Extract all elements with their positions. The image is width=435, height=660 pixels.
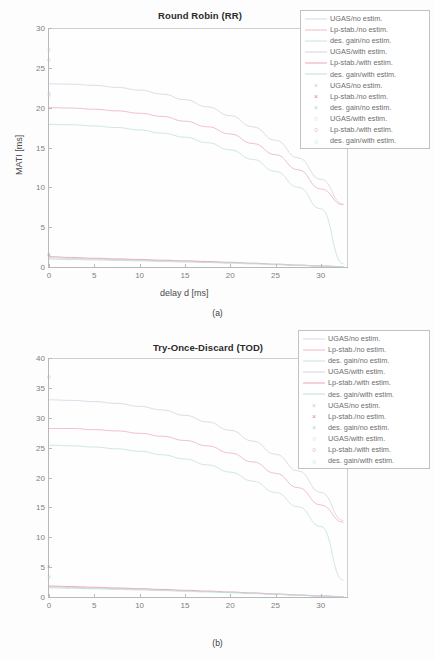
legend-marker-icon: × (314, 104, 318, 111)
y-tick-mark (49, 68, 52, 69)
legend-item: ×Lp-stab./no estim. (303, 91, 426, 102)
legend-a: UGAS/no estim.Lp-stab./no estim.des. gai… (300, 10, 430, 149)
legend-item: ○UGAS/with estim. (301, 433, 426, 444)
legend-line-swatch (303, 69, 329, 80)
legend-marker-icon: ○ (312, 457, 316, 464)
legend-line (305, 40, 327, 41)
x-tick-label: 10 (135, 271, 144, 280)
legend-marker-swatch: × (303, 80, 329, 91)
legend-label: Lp-stab./no estim. (327, 345, 386, 354)
legend-label: des. gain/with estim. (327, 456, 394, 465)
legend-item: des. gain/no estim. (303, 35, 426, 46)
legend-item: ×des. gain/no estim. (303, 102, 426, 113)
y-tick-mark (49, 227, 52, 228)
legend-line-swatch (301, 366, 327, 377)
x-tick-mark (49, 264, 50, 267)
chart-title-a: Round Robin (RR) (120, 10, 280, 21)
legend-line-swatch (303, 35, 329, 46)
y-tick-mark (49, 28, 52, 29)
y-tick-label: 25 (36, 443, 45, 452)
legend-b: UGAS/no estim.Lp-stab./no estim.des. gai… (298, 330, 430, 469)
legend-line (305, 29, 327, 30)
legend-marker-icon: × (314, 82, 318, 89)
legend-line (305, 18, 327, 19)
legend-line (305, 74, 327, 75)
y-tick-label: 5 (41, 223, 45, 232)
legend-marker-icon: × (312, 402, 316, 409)
x-tick-mark (185, 594, 186, 597)
legend-marker-swatch: × (301, 422, 327, 433)
legend-label: UGAS/with estim. (327, 434, 385, 443)
legend-marker-icon: × (312, 424, 316, 431)
x-tick-label: 25 (271, 601, 280, 610)
y-tick-label: 10 (36, 533, 45, 542)
x-tick-label: 5 (92, 601, 96, 610)
legend-label: Lp-stab./no estim. (329, 92, 388, 101)
legend-label: UGAS/no estim. (329, 14, 382, 23)
y-tick-label: 20 (36, 473, 45, 482)
legend-label: Lp-stab./with estim. (329, 58, 393, 67)
y-tick-label: 30 (36, 24, 45, 33)
chart-title-b: Try-Once-Discard (TOD) (118, 342, 298, 353)
legend-line-swatch (303, 46, 329, 57)
legend-label: UGAS/no estim. (329, 81, 382, 90)
legend-label: des. gain/with estim. (329, 70, 396, 79)
y-tick-label: 15 (36, 143, 45, 152)
x-tick-label: 15 (180, 271, 189, 280)
y-tick-label: 0 (41, 593, 45, 602)
legend-item: des. gain/with estim. (303, 68, 426, 79)
x-tick-label: 20 (226, 271, 235, 280)
legend-label: UGAS/with estim. (327, 367, 385, 376)
legend-line (303, 394, 325, 395)
y-tick-mark (49, 448, 52, 449)
legend-line-swatch (301, 333, 327, 344)
x-tick-mark (230, 264, 231, 267)
x-tick-mark (94, 264, 95, 267)
y-tick-label: 30 (36, 413, 45, 422)
y-tick-label: 20 (36, 103, 45, 112)
legend-marker-swatch: ○ (303, 135, 329, 146)
y-tick-label: 10 (36, 183, 45, 192)
y-tick-mark (49, 148, 52, 149)
y-tick-label: 5 (41, 563, 45, 572)
legend-label: des. gain/no estim. (327, 356, 389, 365)
x-tick-mark (94, 594, 95, 597)
legend-item: Lp-stab./with estim. (303, 57, 426, 68)
x-tick-label: 20 (226, 601, 235, 610)
y-axis-label-a: MATI [ms] (14, 135, 24, 175)
legend-label: Lp-stab./with estim. (327, 445, 391, 454)
x-tick-label: 15 (180, 601, 189, 610)
x-tick-label: 5 (92, 271, 96, 280)
legend-item: UGAS/no estim. (301, 333, 426, 344)
figure-round-robin: Round Robin (RR) MATI [ms] delay d [ms] … (0, 0, 435, 330)
y-tick-mark (49, 597, 52, 598)
y-tick-label: 0 (41, 263, 45, 272)
legend-line (303, 371, 325, 372)
legend-label: des. gain/no estim. (329, 103, 391, 112)
legend-marker-swatch: ○ (301, 433, 327, 444)
legend-label: UGAS/no estim. (327, 401, 380, 410)
legend-marker-icon: ○ (312, 435, 316, 442)
legend-item: UGAS/no estim. (303, 13, 426, 24)
x-tick-mark (276, 594, 277, 597)
legend-item: UGAS/with estim. (303, 46, 426, 57)
data-point-marker: ○ (47, 253, 51, 260)
legend-marker-swatch: × (303, 102, 329, 113)
legend-marker-icon: × (314, 93, 318, 100)
data-point-marker: × (47, 574, 51, 581)
legend-item: Lp-stab./no estim. (301, 344, 426, 355)
x-tick-mark (140, 264, 141, 267)
legend-item: UGAS/with estim. (301, 366, 426, 377)
legend-label: Lp-stab./with estim. (329, 125, 393, 134)
x-tick-label: 0 (47, 601, 51, 610)
legend-line-swatch (301, 377, 327, 388)
legend-item: ×UGAS/no estim. (301, 400, 426, 411)
legend-marker-swatch: ○ (303, 113, 329, 124)
legend-marker-swatch: ○ (301, 455, 327, 466)
y-tick-mark (49, 108, 52, 109)
legend-marker-icon: ○ (314, 126, 318, 133)
legend-label: Lp-stab./with estim. (327, 378, 391, 387)
legend-item: ○Lp-stab./with estim. (301, 444, 426, 455)
y-tick-mark (49, 187, 52, 188)
x-tick-mark (185, 264, 186, 267)
